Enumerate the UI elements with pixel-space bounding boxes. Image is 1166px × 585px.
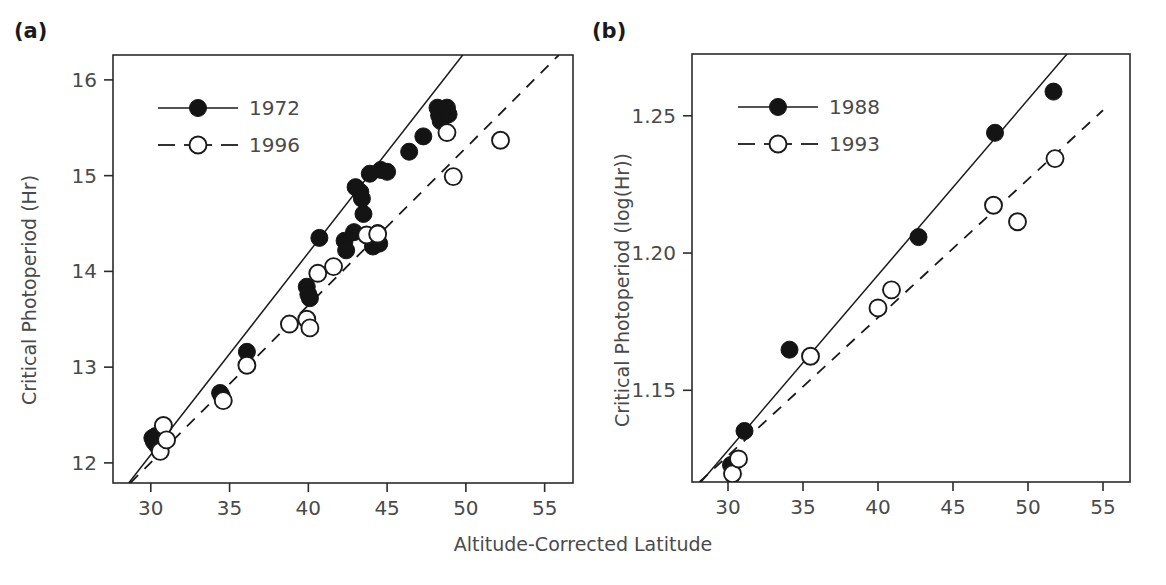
x-tick-label: 45 — [940, 495, 965, 519]
x-tick-label: 50 — [453, 496, 478, 520]
x-tick-label: 40 — [296, 496, 321, 520]
data-point-1972 — [338, 242, 355, 259]
y-axis-title: Critical Photoperiod (log(Hr)) — [611, 153, 633, 427]
x-tick-label: 45 — [374, 496, 399, 520]
data-point-1972 — [355, 205, 372, 222]
data-point-1993 — [870, 299, 887, 316]
legend-label-1993: 1993 — [829, 132, 880, 156]
panel-letter: (b) — [592, 19, 626, 43]
data-point-1996 — [238, 357, 255, 374]
y-tick-label: 1.15 — [631, 378, 676, 402]
data-point-1993 — [730, 450, 747, 467]
y-tick-label: 13 — [72, 355, 97, 379]
data-point-1972 — [440, 106, 457, 123]
legend-marker-open — [190, 137, 207, 154]
axes-frame — [692, 54, 1130, 482]
data-point-1993 — [883, 281, 900, 298]
data-point-1993 — [1047, 150, 1064, 167]
fit-line-1988 — [701, 54, 1067, 482]
y-tick-label: 1.20 — [631, 241, 676, 265]
data-point-1972 — [401, 143, 418, 160]
data-point-1996 — [301, 319, 318, 336]
panel-letter: (a) — [14, 19, 47, 43]
panel-b: 3035404550551.151.201.25(b)Critical Phot… — [592, 19, 1130, 519]
data-point-1996 — [281, 316, 298, 333]
data-point-1972 — [311, 229, 328, 246]
panel-a: 3035404550551213141516(a)Critical Photop… — [14, 19, 573, 520]
data-point-1988 — [1045, 83, 1062, 100]
y-tick-label: 1.25 — [631, 104, 676, 128]
data-point-1972 — [379, 163, 396, 180]
data-layer — [129, 55, 559, 483]
x-axis-title: Altitude-Corrected Latitude — [454, 533, 712, 555]
x-tick-label: 30 — [138, 496, 163, 520]
data-point-1988 — [910, 229, 927, 246]
x-tick-label: 35 — [217, 496, 242, 520]
x-tick-label: 55 — [532, 496, 557, 520]
data-point-1996 — [438, 124, 455, 141]
figure-svg: 3035404550551213141516(a)Critical Photop… — [0, 0, 1166, 585]
data-point-1993 — [1009, 213, 1026, 230]
y-tick-label: 14 — [72, 259, 97, 283]
fit-line-1993 — [700, 110, 1104, 482]
x-tick-label: 35 — [790, 495, 815, 519]
data-point-1996 — [369, 226, 386, 243]
data-point-1996 — [309, 265, 326, 282]
data-point-1988 — [736, 422, 753, 439]
x-tick-label: 55 — [1090, 495, 1115, 519]
data-point-1996 — [445, 168, 462, 185]
fit-line-1996 — [130, 55, 558, 483]
x-tick-label: 30 — [715, 495, 740, 519]
data-point-1972 — [353, 190, 370, 207]
legend-label-1996: 1996 — [249, 133, 300, 157]
y-tick-label: 15 — [72, 164, 97, 188]
data-point-1972 — [301, 290, 318, 307]
data-point-1996 — [158, 431, 175, 448]
data-point-1993 — [802, 348, 819, 365]
data-point-1993 — [985, 197, 1002, 214]
y-tick-label: 12 — [72, 451, 97, 475]
data-point-1972 — [415, 128, 432, 145]
data-layer — [700, 54, 1104, 482]
y-axis-title: Critical Photoperiod (Hr) — [18, 175, 40, 405]
legend-marker-filled — [770, 99, 787, 116]
figure-root: 3035404550551213141516(a)Critical Photop… — [0, 0, 1166, 585]
data-point-1996 — [325, 258, 342, 275]
data-point-1988 — [987, 124, 1004, 141]
x-tick-label: 50 — [1015, 495, 1040, 519]
data-point-1988 — [781, 341, 798, 358]
x-tick-label: 40 — [865, 495, 890, 519]
legend-label-1988: 1988 — [829, 95, 880, 119]
data-point-1996 — [492, 132, 509, 149]
data-point-1996 — [215, 392, 232, 409]
y-tick-label: 16 — [72, 68, 97, 92]
legend-marker-filled — [190, 100, 207, 117]
axes-frame — [113, 55, 573, 483]
legend-label-1972: 1972 — [249, 96, 300, 120]
legend-marker-open — [770, 136, 787, 153]
